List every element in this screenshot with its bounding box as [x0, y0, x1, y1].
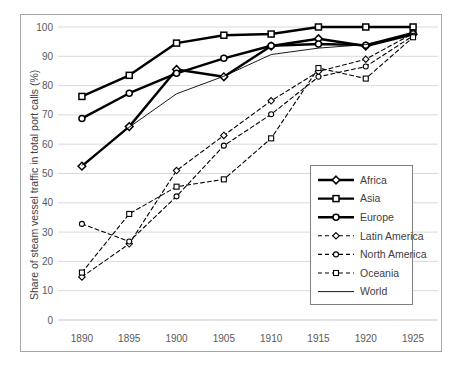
data-point-marker	[268, 43, 274, 49]
data-point-marker	[126, 72, 132, 78]
data-point-marker	[174, 184, 179, 189]
y-tick-label: 20	[42, 256, 54, 267]
x-tick-label: 1905	[213, 333, 236, 344]
legend-label: Africa	[360, 174, 387, 186]
data-point-marker	[127, 211, 132, 216]
x-tick-label: 1890	[71, 333, 94, 344]
y-tick-label: 70	[42, 109, 54, 120]
data-point-marker	[316, 74, 321, 79]
legend-label: Oceania	[360, 267, 399, 279]
data-point-marker	[79, 221, 84, 226]
legend-marker-swatch	[333, 214, 339, 220]
data-point-marker	[269, 136, 274, 141]
y-tick-label: 80	[42, 80, 54, 91]
chart-legend: AfricaAsiaEuropeLatin AmericaNorth Ameri…	[311, 166, 427, 305]
y-tick-label: 50	[42, 168, 54, 179]
data-point-marker	[174, 194, 179, 199]
line-chart: 0102030405060708090100 18901895190019051…	[0, 0, 455, 370]
data-point-marker	[126, 90, 132, 96]
y-tick-label: 60	[42, 139, 54, 150]
data-point-marker	[363, 24, 369, 30]
data-point-marker	[174, 70, 180, 76]
data-point-marker	[221, 143, 226, 148]
y-tick-label: 90	[42, 51, 54, 62]
x-tick-label: 1900	[165, 333, 188, 344]
data-point-marker	[269, 112, 274, 117]
y-tick-label: 0	[47, 315, 53, 326]
x-tick-label: 1925	[402, 333, 425, 344]
x-tick-label: 1895	[118, 333, 141, 344]
data-point-marker	[268, 31, 274, 37]
data-point-marker	[174, 40, 180, 46]
legend-label: Asia	[360, 192, 381, 204]
legend-marker-swatch	[334, 252, 339, 257]
data-point-marker	[363, 64, 368, 69]
legend-label: World	[360, 285, 387, 297]
legend-marker-swatch	[334, 271, 339, 276]
y-tick-label: 30	[42, 227, 54, 238]
y-tick-label: 10	[42, 285, 54, 296]
data-point-marker	[127, 239, 132, 244]
x-tick-label: 1920	[355, 333, 378, 344]
legend-label: North America	[360, 248, 427, 260]
y-axis-title: Share of steam vessel traffic in total p…	[28, 70, 40, 300]
data-point-marker	[315, 24, 321, 30]
data-point-marker	[315, 41, 321, 47]
data-point-marker	[79, 115, 85, 121]
data-point-marker	[410, 24, 416, 30]
chart-figure: 0102030405060708090100 18901895190019051…	[0, 0, 455, 370]
data-point-marker	[411, 35, 416, 40]
data-point-marker	[221, 32, 227, 38]
y-tick-label: 100	[36, 22, 53, 33]
data-point-marker	[221, 177, 226, 182]
x-tick-label: 1915	[307, 333, 330, 344]
data-point-marker	[79, 93, 85, 99]
y-tick-label: 40	[42, 197, 54, 208]
data-point-marker	[221, 55, 227, 61]
x-tick-label: 1910	[260, 333, 283, 344]
legend-label: Europe	[360, 211, 394, 223]
legend-marker-swatch	[333, 196, 339, 202]
data-point-marker	[363, 76, 368, 81]
data-point-marker	[79, 270, 84, 275]
legend-label: Latin America	[360, 230, 424, 242]
data-point-marker	[316, 66, 321, 71]
